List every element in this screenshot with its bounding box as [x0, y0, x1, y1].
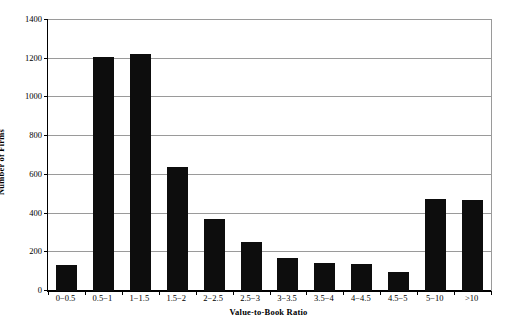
bar — [314, 263, 335, 291]
x-axis-tick-labels: 0−0.50.5−11−1.51.5−22−2.52.5−33−3.53.5−4… — [47, 294, 490, 303]
x-axis-tick-label: 2.5−3 — [232, 294, 269, 303]
bars-group — [48, 20, 491, 291]
bar-slot — [380, 20, 417, 291]
x-axis-title: Value-to-Book Ratio — [47, 307, 490, 317]
bar — [425, 199, 446, 291]
x-axis-tick — [491, 291, 492, 295]
y-axis-tick-label: 800 — [29, 131, 42, 140]
y-axis-tick-label: 1200 — [25, 53, 42, 62]
bar-slot — [85, 20, 122, 291]
x-axis-tick-label: 1.5−2 — [158, 294, 195, 303]
y-axis-tick-label: 1400 — [25, 15, 42, 24]
bar — [93, 57, 114, 291]
x-axis-tick-label: 0.5−1 — [84, 294, 121, 303]
y-axis-tick-label: 1000 — [25, 92, 42, 101]
bar-slot — [417, 20, 454, 291]
x-axis-tick-label: 4.5−5 — [379, 294, 416, 303]
bar — [56, 265, 77, 291]
bar-slot — [233, 20, 270, 291]
bar-slot — [196, 20, 233, 291]
y-axis-title: Number of Firms — [0, 0, 20, 324]
bar-slot — [270, 20, 307, 291]
bar — [277, 258, 298, 291]
x-axis-tick-label: 2−2.5 — [195, 294, 232, 303]
y-axis-tick-label: 600 — [29, 170, 42, 179]
bar — [204, 219, 225, 291]
y-axis-tick-label: 400 — [29, 208, 42, 217]
bar-slot — [48, 20, 85, 291]
bar-slot — [159, 20, 196, 291]
plot-area: 0200400600800100012001400 — [47, 19, 492, 292]
bar-slot — [343, 20, 380, 291]
x-axis-tick-label: 0−0.5 — [47, 294, 84, 303]
x-axis-tick-label: 1−1.5 — [121, 294, 158, 303]
y-axis-tick-label: 0 — [38, 286, 42, 295]
x-axis-tick-label: >10 — [453, 294, 490, 303]
bar — [388, 272, 409, 291]
x-axis-tick-label: 4−4.5 — [342, 294, 379, 303]
y-axis-tick-label: 200 — [29, 247, 42, 256]
bar-slot — [122, 20, 159, 291]
bar — [351, 264, 372, 291]
bar-chart: Number of Firms 020040060080010001200140… — [0, 0, 506, 324]
bar — [241, 242, 262, 291]
bar — [130, 54, 151, 291]
bar — [462, 200, 483, 291]
bar — [167, 167, 188, 291]
bar-slot — [306, 20, 343, 291]
bar-slot — [454, 20, 491, 291]
x-axis-tick-label: 3−3.5 — [269, 294, 306, 303]
x-axis-tick-label: 5−10 — [416, 294, 453, 303]
x-axis-tick-label: 3.5−4 — [305, 294, 342, 303]
